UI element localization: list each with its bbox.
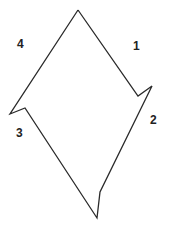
shape-outline bbox=[10, 10, 152, 218]
kite-diagram bbox=[0, 0, 173, 229]
side-label-4: 4 bbox=[17, 38, 24, 50]
side-label-3: 3 bbox=[16, 127, 23, 139]
side-label-2: 2 bbox=[150, 114, 157, 126]
side-label-1: 1 bbox=[133, 40, 140, 52]
